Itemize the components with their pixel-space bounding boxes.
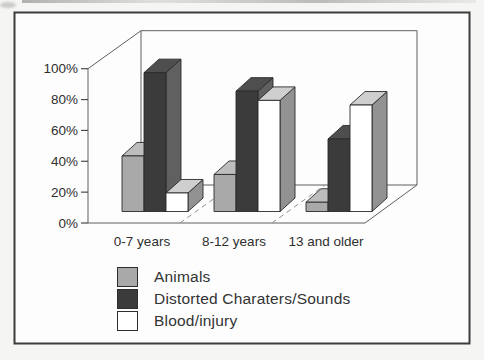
y-axis-tick-label: 40% <box>51 154 78 169</box>
legend-swatch-animals <box>117 267 138 287</box>
bar-side-face <box>280 87 295 212</box>
x-axis-category-label: 13 and older <box>288 234 364 249</box>
bar-front-face <box>328 139 350 212</box>
bar-side-face <box>372 92 387 212</box>
bar-front-face <box>122 156 144 212</box>
x-axis-category-label: 0-7 years <box>114 234 171 249</box>
legend-swatch-distorted-charaters-sounds <box>117 289 138 309</box>
bar-front-face <box>350 105 372 211</box>
legend-label-animals: Animals <box>154 267 211 287</box>
legend-item-distorted-charaters-sounds: Distorted Charaters/Sounds <box>117 289 350 309</box>
y-axis-tick-label: 60% <box>51 123 78 138</box>
bar-blood-injury-13-and-older <box>350 92 387 212</box>
y-axis-tick-label: 80% <box>51 92 78 107</box>
legend-item-blood-injury: Blood/injury <box>117 311 350 331</box>
bar-front-face <box>258 100 280 211</box>
legend-swatch-blood-injury <box>117 311 138 331</box>
bar-front-face <box>214 174 236 211</box>
legend-label-blood-injury: Blood/injury <box>154 311 237 331</box>
scan-smudge-corner <box>0 2 16 8</box>
bar-front-face <box>236 91 258 211</box>
y-axis-tick-label: 0% <box>58 216 78 231</box>
x-axis-category-label: 8-12 years <box>202 234 266 249</box>
chart-legend: Animals Distorted Charaters/Sounds Blood… <box>117 267 350 333</box>
figure-page: 0%20%40%60%80%100%0-7 years8-12 years13 … <box>0 0 484 360</box>
scan-smudge-top <box>22 0 476 3</box>
legend-label-distorted-charaters-sounds: Distorted Charaters/Sounds <box>154 289 350 309</box>
bar-front-face <box>306 202 328 211</box>
bar-blood-injury-8-12-years <box>258 87 295 212</box>
bar-front-face <box>166 193 188 212</box>
y-axis-tick-label: 100% <box>43 61 78 76</box>
bar-front-face <box>144 73 166 212</box>
legend-item-animals: Animals <box>117 267 350 287</box>
y-axis-tick-label: 20% <box>51 185 78 200</box>
